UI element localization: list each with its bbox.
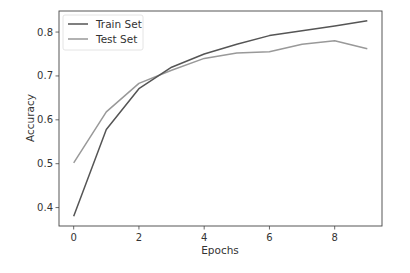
test-set-line bbox=[74, 41, 368, 163]
x-tick-label: 0 bbox=[70, 232, 76, 243]
x-tick-label: 6 bbox=[266, 232, 272, 243]
y-tick-label: 0.5 bbox=[37, 158, 53, 169]
legend-train-label: Train Set bbox=[95, 18, 142, 30]
y-tick-label: 0.8 bbox=[37, 27, 53, 38]
legend-test-label: Test Set bbox=[95, 33, 137, 45]
y-axis-label: Accuracy bbox=[24, 94, 36, 142]
chart-canvas: 02468 0.40.50.60.70.8 Epochs Accuracy Tr… bbox=[0, 0, 410, 273]
x-tick-label: 4 bbox=[201, 232, 207, 243]
x-axis-ticks: 02468 bbox=[70, 226, 337, 243]
legend: Train Set Test Set bbox=[63, 15, 143, 50]
x-tick-label: 8 bbox=[332, 232, 338, 243]
x-tick-label: 2 bbox=[136, 232, 142, 243]
x-axis-label: Epochs bbox=[201, 244, 239, 256]
y-tick-label: 0.6 bbox=[37, 114, 53, 125]
y-tick-label: 0.7 bbox=[37, 70, 53, 81]
y-tick-label: 0.4 bbox=[37, 202, 53, 213]
y-axis-ticks: 0.40.50.60.70.8 bbox=[37, 27, 59, 214]
